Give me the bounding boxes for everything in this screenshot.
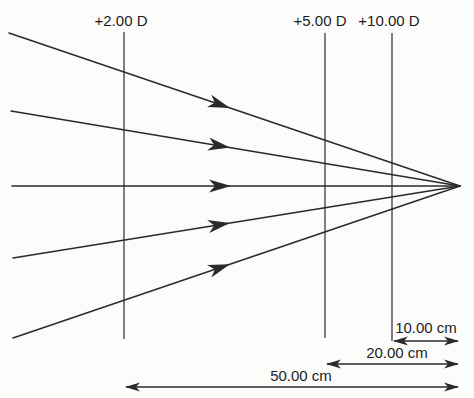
light-ray-5: [13, 186, 460, 338]
vergence-label-plus-10d: +10.00 D: [358, 12, 419, 29]
vergence-label-plus-2d: +2.00 D: [95, 12, 148, 29]
vergence-diagram-canvas: +2.00 D +5.00 D +10.00 D 10.00 cm 20.00 …: [0, 0, 474, 398]
vergence-diagram: +2.00 D +5.00 D +10.00 D 10.00 cm 20.00 …: [0, 0, 474, 398]
light-ray-4: [13, 186, 460, 258]
labels: +2.00 D +5.00 D +10.00 D 10.00 cm 20.00 …: [95, 12, 457, 384]
distance-label-50cm: 50.00 cm: [270, 367, 332, 384]
vergence-label-plus-5d: +5.00 D: [294, 12, 347, 29]
distance-label-20cm: 20.00 cm: [366, 344, 428, 361]
light-ray-2: [11, 111, 460, 186]
distance-label-10cm: 10.00 cm: [395, 319, 457, 336]
